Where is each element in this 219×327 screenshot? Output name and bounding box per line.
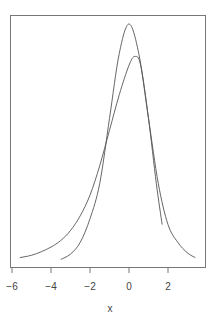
x-tick-label: 0 [126, 281, 132, 292]
x-tick-label: −4 [45, 281, 57, 292]
density-curve-2 [20, 56, 162, 257]
series-layer [20, 24, 196, 259]
x-axis-label: x [108, 303, 113, 314]
density-curve-1 [61, 24, 196, 259]
plot-frame [11, 16, 206, 268]
x-tick-label: 2 [165, 281, 171, 292]
density-chart: −6−4−202 x [0, 0, 219, 327]
x-tick-label: −2 [84, 281, 96, 292]
x-axis: −6−4−202 [6, 268, 171, 292]
x-tick-label: −6 [6, 281, 18, 292]
